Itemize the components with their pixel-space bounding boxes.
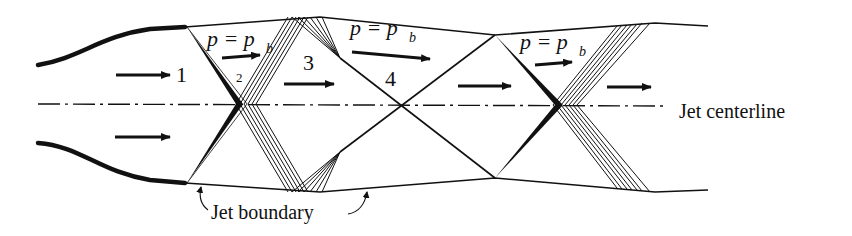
reflected-fan-lower <box>292 152 340 192</box>
flow-arrows <box>115 52 651 137</box>
jet-diagram: 1 2 3 4 p = p b p = p b p = p b Jet cent… <box>0 0 852 236</box>
flow-arrow-icon <box>535 62 572 65</box>
leader-arrow-icon <box>200 187 208 210</box>
svg-text:p = p: p = p <box>518 29 568 54</box>
svg-text:b: b <box>266 41 273 56</box>
reflected-fan-upper <box>292 17 340 58</box>
svg-text:b: b <box>579 44 586 59</box>
pressure-label-2: p = p b <box>348 15 416 45</box>
nozzle-upper-wall <box>38 27 185 65</box>
jet-boundary-label: Jet boundary <box>211 201 314 224</box>
flow-arrow-icon <box>222 55 260 58</box>
diagram-svg: 1 2 3 4 p = p b p = p b p = p b Jet cent… <box>0 0 852 236</box>
region-label-3: 3 <box>303 50 314 75</box>
nozzle-lower-wall <box>38 143 185 183</box>
svg-text:p = p: p = p <box>348 15 398 40</box>
compression-fan-2 <box>495 35 563 178</box>
leader-arrow-icon <box>348 192 367 214</box>
jet-centerline-label: Jet centerline <box>679 100 785 122</box>
svg-text:p = p: p = p <box>205 26 255 51</box>
svg-text:b: b <box>409 30 416 45</box>
region-label-2: 2 <box>236 70 243 85</box>
flow-arrow-icon <box>352 52 430 59</box>
pressure-label-3: p = p b <box>518 29 586 59</box>
pressure-label-1: p = p b <box>205 26 273 56</box>
region-label-4: 4 <box>385 66 396 91</box>
region-label-1: 1 <box>176 62 187 87</box>
